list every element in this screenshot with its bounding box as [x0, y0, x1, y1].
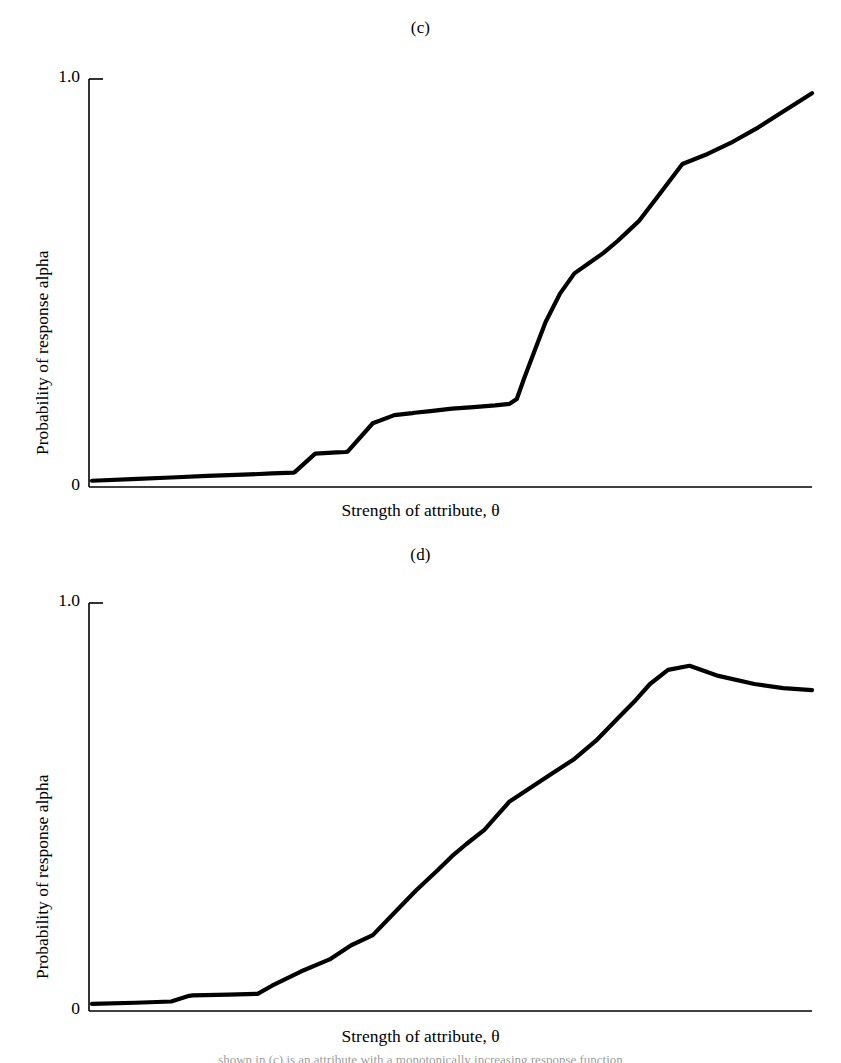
panel-d-data-curve [92, 666, 812, 1004]
figure-container: (c) 1.0 0 Probability of response alpha … [0, 0, 841, 1063]
figure-bottom-caption: shown in (c) is an attribute with a mono… [0, 1050, 841, 1063]
panel-d-x-axis-label: Strength of attribute, θ [0, 1026, 841, 1047]
panel-c: (c) 1.0 0 Probability of response alpha … [0, 0, 841, 532]
panel-c-plot [0, 0, 841, 532]
panel-d: (d) 1.0 0 Probability of response alpha … [0, 531, 841, 1063]
panel-c-x-axis-label: Strength of attribute, θ [0, 500, 841, 521]
panel-c-data-curve [92, 93, 812, 481]
panel-d-plot [0, 531, 841, 1063]
